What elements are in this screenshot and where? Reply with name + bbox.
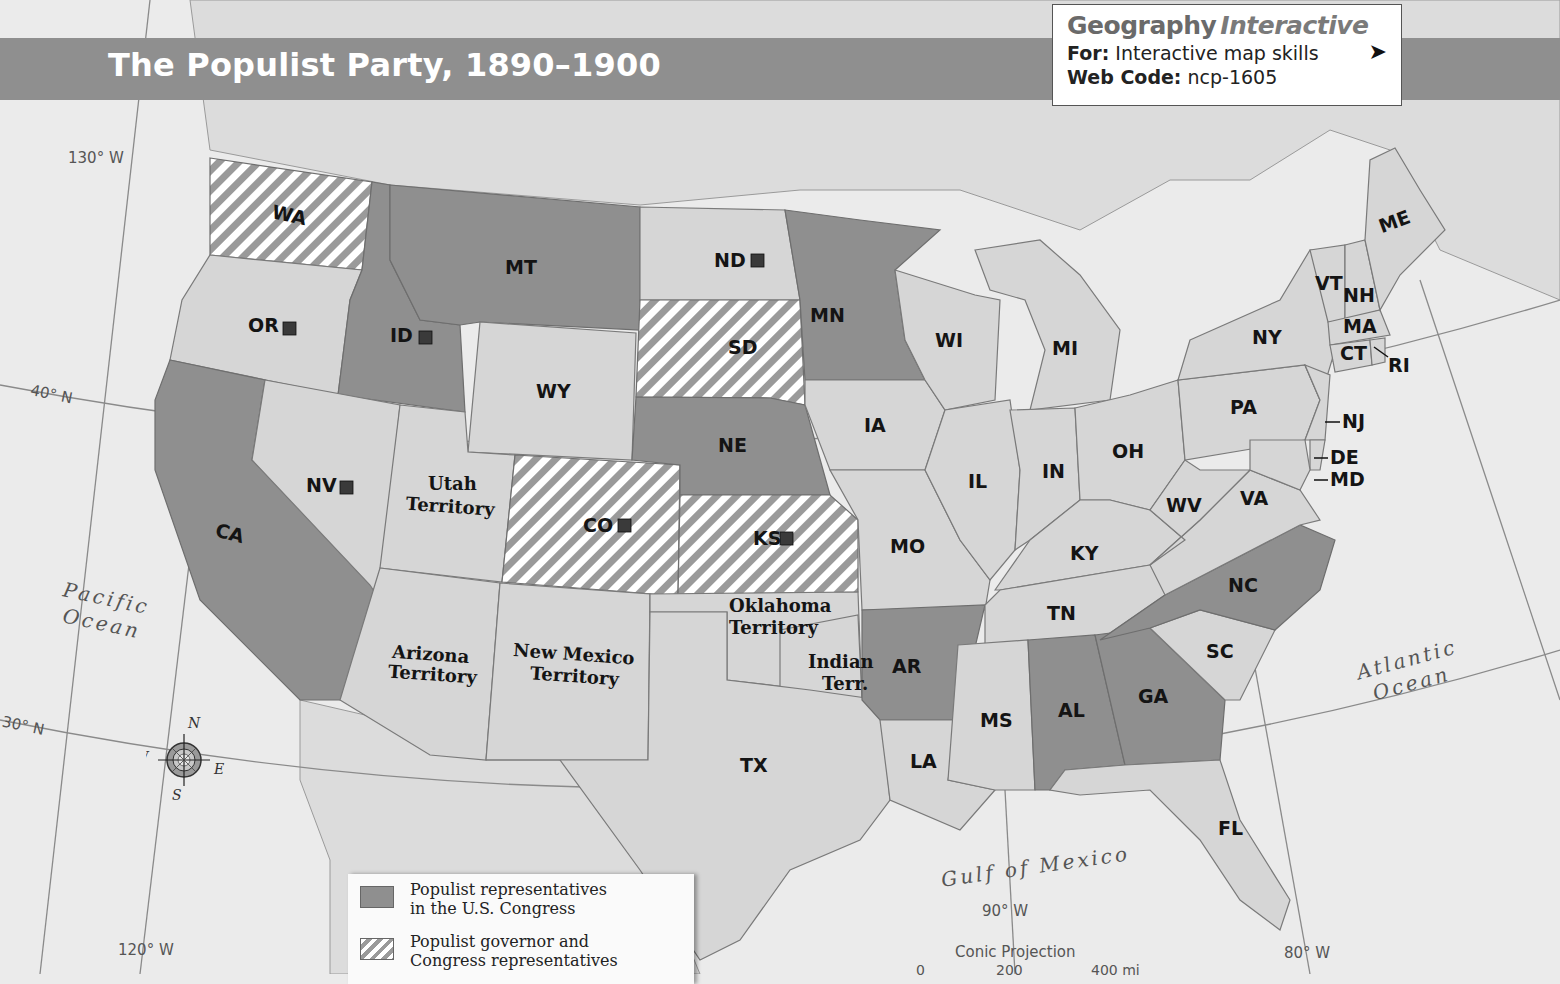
grid-label-80w: 80° W	[1284, 944, 1330, 962]
label-mt: MT	[505, 256, 537, 278]
state-sd[interactable]	[636, 300, 805, 405]
label-in: IN	[1042, 460, 1065, 482]
state-fl[interactable]	[1050, 760, 1290, 930]
label-oh: OH	[1112, 440, 1144, 462]
label-mi: MI	[1052, 337, 1078, 359]
webcode-line: Web Code: ncp-1605	[1067, 65, 1387, 89]
label-vt: VT	[1315, 272, 1343, 294]
label-ut-1: Utah	[428, 473, 477, 494]
label-mo: MO	[890, 535, 925, 557]
label-wi: WI	[935, 329, 963, 351]
marker-id	[419, 331, 432, 344]
for-line: For: Interactive map skills	[1067, 41, 1387, 65]
label-ny: NY	[1252, 326, 1282, 348]
marker-or	[283, 322, 296, 335]
legend-swatch-hatch	[360, 938, 394, 960]
marker-ks	[780, 532, 793, 545]
label-ia: IA	[864, 414, 886, 436]
scale-200: 200	[996, 962, 1091, 978]
map-title: The Populist Party, 1890–1900	[108, 46, 661, 84]
brand-interactive: Interactive	[1220, 11, 1368, 40]
geography-interactive-box[interactable]: GeographyInteractive ➤ For: Interactive …	[1052, 4, 1402, 106]
legend-text-congress: Populist representatives in the U.S. Con…	[410, 880, 607, 918]
label-ne: NE	[718, 434, 747, 456]
grid-label-30n: 30° N	[1, 712, 46, 738]
compass-rose: N W E S	[146, 712, 226, 802]
label-it-1: Indian	[808, 651, 874, 672]
label-il: IL	[968, 470, 987, 492]
projection-label: Conic Projection	[955, 943, 1076, 961]
state-ri[interactable]	[1370, 338, 1385, 365]
for-label: For:	[1067, 42, 1109, 64]
label-ga: GA	[1138, 685, 1169, 707]
label-mn: MN	[810, 304, 845, 326]
marker-co	[618, 519, 631, 532]
svg-text:E: E	[213, 761, 224, 777]
label-nv: NV	[306, 474, 337, 496]
legend-text-governor: Populist governor and Congress represent…	[410, 932, 618, 970]
state-de[interactable]	[1310, 440, 1325, 470]
label-nd: ND	[714, 249, 746, 271]
label-nc: NC	[1228, 574, 1258, 596]
label-de: DE	[1330, 446, 1359, 468]
scale-400: 400 mi	[1091, 962, 1140, 978]
label-gulf: Gulf of Mexico	[940, 841, 1132, 891]
svg-text:N: N	[187, 715, 201, 731]
grid-label-130w: 130° W	[68, 149, 124, 167]
legend-item-congress: Populist representatives in the U.S. Con…	[360, 880, 607, 918]
label-ri: RI	[1388, 354, 1410, 376]
label-sc: SC	[1206, 640, 1234, 662]
label-nh: NH	[1343, 284, 1375, 306]
label-ok-2: Territory	[729, 617, 818, 638]
label-la: LA	[910, 750, 937, 772]
label-ky: KY	[1070, 542, 1099, 564]
map-legend: Populist representatives in the U.S. Con…	[348, 874, 694, 984]
label-id: ID	[390, 324, 413, 346]
scale-0: 0	[916, 962, 996, 978]
label-tn: TN	[1047, 602, 1076, 624]
label-fl: FL	[1218, 817, 1243, 839]
label-ms: MS	[980, 709, 1013, 731]
label-co: CO	[583, 514, 613, 536]
label-ok-1: Oklahoma	[729, 595, 832, 616]
brand-geography: Geography	[1067, 11, 1216, 40]
grid-label-40n: 40° N	[29, 381, 74, 407]
for-value: Interactive map skills	[1115, 42, 1318, 64]
mouse-pointer-icon: ➤	[1369, 39, 1387, 64]
compass-icon: N W E S	[146, 712, 226, 802]
svg-text:W: W	[146, 749, 150, 765]
label-or: OR	[248, 314, 279, 336]
legend-item-governor: Populist governor and Congress represent…	[360, 932, 618, 970]
marker-nv	[340, 481, 353, 494]
scale-bar: 0200400 mi	[916, 962, 1140, 978]
label-al: AL	[1058, 699, 1085, 721]
label-ks: KS	[753, 527, 781, 549]
svg-text:S: S	[172, 787, 182, 802]
label-wy: WY	[536, 380, 571, 402]
webcode-label: Web Code:	[1067, 66, 1181, 88]
label-it-2: Terr.	[822, 673, 868, 694]
label-nj: NJ	[1342, 410, 1365, 432]
label-ma: MA	[1343, 315, 1377, 337]
label-ar: AR	[892, 655, 922, 677]
grid-label-120w: 120° W	[118, 941, 174, 959]
label-md: MD	[1330, 468, 1365, 490]
webcode-value: ncp-1605	[1188, 66, 1278, 88]
legend-swatch-solid	[360, 886, 394, 908]
marker-nd	[751, 254, 764, 267]
label-ct: CT	[1340, 342, 1367, 364]
label-sd: SD	[728, 336, 757, 358]
label-pa: PA	[1230, 396, 1257, 418]
label-va: VA	[1240, 487, 1268, 509]
grid-label-90w: 90° W	[982, 902, 1028, 920]
geography-interactive-brand: GeographyInteractive	[1067, 11, 1387, 41]
label-tx: TX	[740, 754, 768, 776]
label-wv: WV	[1166, 494, 1202, 516]
